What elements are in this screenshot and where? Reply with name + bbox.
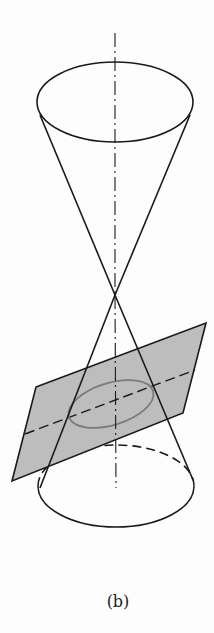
conic-section-figure: (b) <box>0 0 214 633</box>
cutting-plane <box>12 323 206 481</box>
lower-cone-rim-visible <box>38 486 194 527</box>
figure-label: (b) <box>0 592 214 611</box>
cone-axis-lower <box>115 295 116 488</box>
double-cone-diagram <box>0 0 214 633</box>
